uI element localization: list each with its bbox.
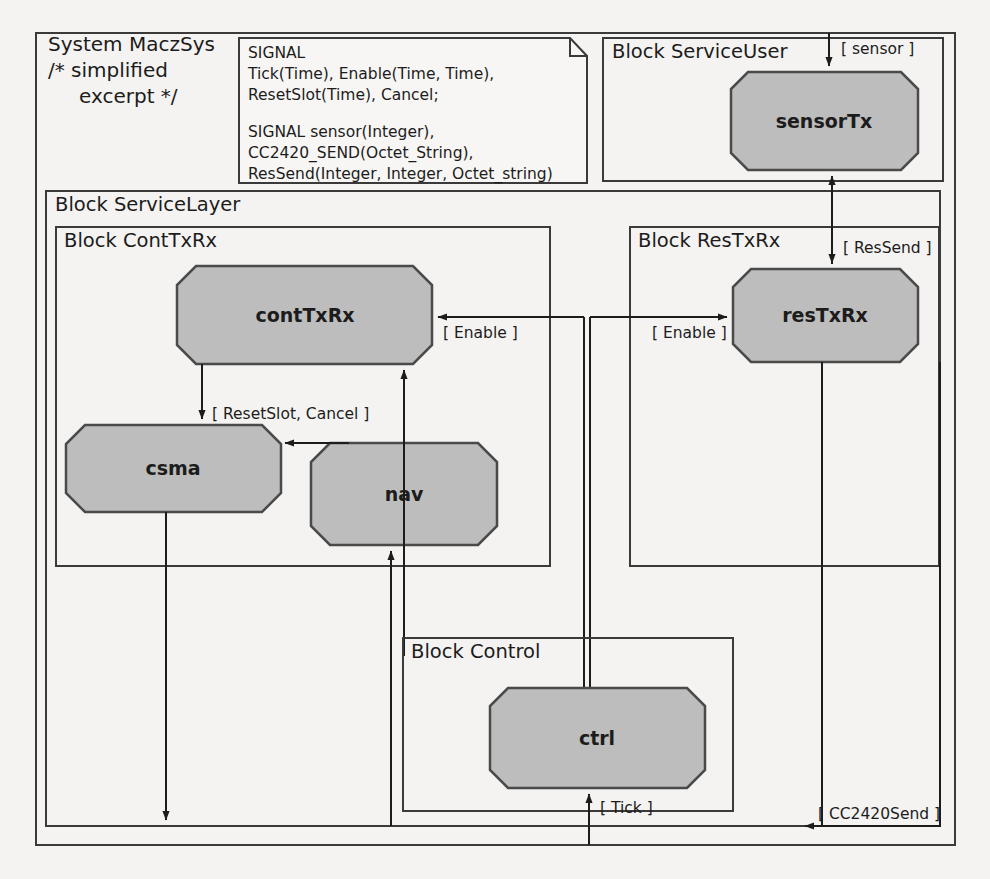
note-line-6: ResSend(Integer, Integer, Octet_string): [248, 165, 553, 184]
signal-label-resetslot-cancel: [ ResetSlot, Cancel ]: [212, 405, 369, 423]
note-line-1: Tick(Time), Enable(Time, Time),: [247, 65, 494, 83]
system-title-line1: System MaczSys: [48, 32, 215, 56]
signal-label-cc2420send: [ CC2420Send ]: [818, 805, 940, 823]
process-ctrl-label: ctrl: [579, 727, 615, 749]
signal-label-tick: [ Tick ]: [600, 799, 653, 817]
note-line-0: SIGNAL: [248, 44, 306, 62]
process-csma-label: csma: [145, 457, 200, 479]
block-restxrx-label: Block ResTxRx: [638, 229, 780, 252]
signal-label-ressend: [ ResSend ]: [843, 239, 932, 257]
process-contTxRx-label: contTxRx: [255, 304, 354, 326]
block-servicelayer-label: Block ServiceLayer: [55, 193, 241, 216]
block-conttxrx-label: Block ContTxRx: [64, 229, 217, 252]
process-resTxRx-label: resTxRx: [782, 304, 868, 326]
note-line-2: ResetSlot(Time), Cancel;: [248, 86, 439, 104]
note-line-4: SIGNAL sensor(Integer),: [248, 123, 434, 141]
sdl-block-diagram-canvas: System MaczSys /* simplified excerpt */ …: [0, 0, 990, 879]
system-title-line2: /* simplified: [48, 58, 168, 82]
connector-cc2420send: [805, 362, 940, 826]
system-title-line3: excerpt */: [79, 84, 178, 108]
connector-nav-csma-arrow: [285, 442, 348, 443]
note-line-5: CC2420_SEND(Octet_String),: [248, 144, 473, 163]
block-control-label: Block Control: [411, 640, 540, 663]
signal-label-enable-cont: [ Enable ]: [443, 324, 518, 342]
signal-label-enable-res: [ Enable ]: [652, 324, 727, 342]
process-sensorTx-label: sensorTx: [776, 110, 873, 132]
block-serviceuser-label: Block ServiceUser: [612, 40, 788, 63]
signal-label-sensor: [ sensor ]: [841, 40, 914, 58]
